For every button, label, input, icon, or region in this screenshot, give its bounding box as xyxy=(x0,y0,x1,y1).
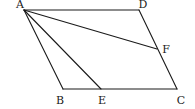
label-d: D xyxy=(139,0,148,11)
label-b: B xyxy=(56,94,64,107)
segments xyxy=(24,10,177,89)
segment-af xyxy=(24,10,157,49)
parallelogram-diagram: A D F B E C xyxy=(0,0,195,109)
label-e: E xyxy=(98,94,106,107)
label-c: C xyxy=(177,94,185,107)
label-a: A xyxy=(15,0,25,11)
label-f: F xyxy=(162,43,170,56)
segment-ba xyxy=(24,10,63,89)
geometry-figure: A D F B E C xyxy=(0,0,195,109)
segment-dc xyxy=(139,10,177,89)
